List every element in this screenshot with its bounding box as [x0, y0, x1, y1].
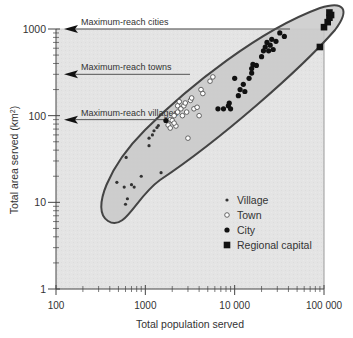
annotation-label: Maximum-reach cities	[81, 17, 169, 27]
legend-item-regional-capital: Regional capital	[224, 239, 312, 251]
annotation-label: Maximum-reach villages	[81, 108, 179, 118]
legend-label: Village	[237, 194, 268, 206]
legend-label: Town	[237, 209, 262, 221]
y-axis-label-close: )	[8, 106, 20, 110]
y-axis-label: Total area served (km2)	[8, 106, 20, 214]
legend-label: City	[237, 224, 256, 236]
x-tick-label: 100 000	[306, 300, 343, 311]
y-tick-label: 1000	[23, 23, 47, 35]
y-tick-label: 100	[28, 110, 46, 122]
y-axis: 1101001000	[23, 23, 60, 295]
legend-label: Regional capital	[237, 239, 312, 251]
x-axis: 100100010 000100 000	[48, 285, 343, 311]
x-tick-label: 10 000	[219, 300, 250, 311]
y-axis-label-text: Total area served (km	[8, 113, 20, 214]
scatter-chart: Maximum-reach citiesMaximum-reach townsM…	[0, 0, 353, 338]
x-tick-label: 100	[48, 300, 65, 311]
y-tick-label: 10	[34, 196, 46, 208]
y-tick-label: 1	[40, 283, 46, 295]
x-tick-label: 1000	[134, 300, 157, 311]
x-axis-label: Total population served	[136, 318, 244, 330]
annotation-label: Maximum-reach towns	[81, 62, 172, 72]
